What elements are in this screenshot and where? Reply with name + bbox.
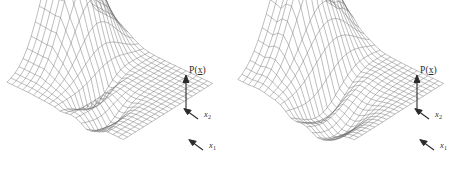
x1-axis-label-sub: 1: [444, 145, 447, 151]
p-axis-label-prefix: P(: [189, 65, 198, 75]
mesh-line: [64, 0, 181, 104]
x2-axis-label-sub: 2: [439, 114, 442, 120]
x2-axis-label: x2: [435, 110, 442, 119]
mesh-line: [270, 0, 387, 121]
right-surface-mesh: [231, 0, 462, 171]
mesh-line: [31, 36, 148, 124]
mesh-line: [319, 0, 436, 89]
mesh-line: [311, 0, 428, 94]
left-surface-plot: P(x) x2 x1: [0, 0, 231, 171]
mesh-line: [242, 74, 359, 140]
mesh-line: [23, 0, 112, 90]
mesh-line: [49, 42, 138, 104]
p-axis-label-suffix: ): [434, 65, 437, 75]
mesh-line: [12, 0, 101, 85]
p-axis-label-prefix: P(: [420, 65, 429, 75]
p-axis-label: P(x): [189, 66, 206, 76]
x2-axis-label-sub: 2: [208, 114, 211, 120]
p-axis-label: P(x): [420, 66, 437, 76]
mesh-line: [35, 22, 152, 122]
figure-board: P(x) x2 x1 P(x) x2 x: [0, 0, 462, 171]
mesh-line: [291, 0, 408, 106]
mesh-line: [280, 35, 369, 105]
right-surface-plot: P(x) x2 x1: [231, 0, 462, 171]
x2-axis-label: x2: [204, 110, 211, 119]
mesh-line: [39, 0, 128, 98]
mesh-line: [254, 0, 343, 87]
x1-axis-label: x1: [440, 141, 447, 150]
mesh-line: [84, 0, 201, 91]
mesh-line: [259, 0, 348, 89]
mesh-line: [18, 0, 107, 87]
mesh-line: [299, 0, 416, 101]
x1-axis-label-sub: 1: [213, 145, 216, 151]
x1-axis-label: x1: [209, 141, 216, 150]
mesh-line: [355, 83, 444, 139]
mesh-line: [312, 63, 401, 133]
p-axis-label-suffix: ): [203, 65, 206, 75]
mesh-line: [274, 0, 391, 117]
left-surface-mesh: [0, 0, 231, 171]
mesh-line: [243, 0, 332, 82]
mesh-line: [296, 54, 385, 124]
